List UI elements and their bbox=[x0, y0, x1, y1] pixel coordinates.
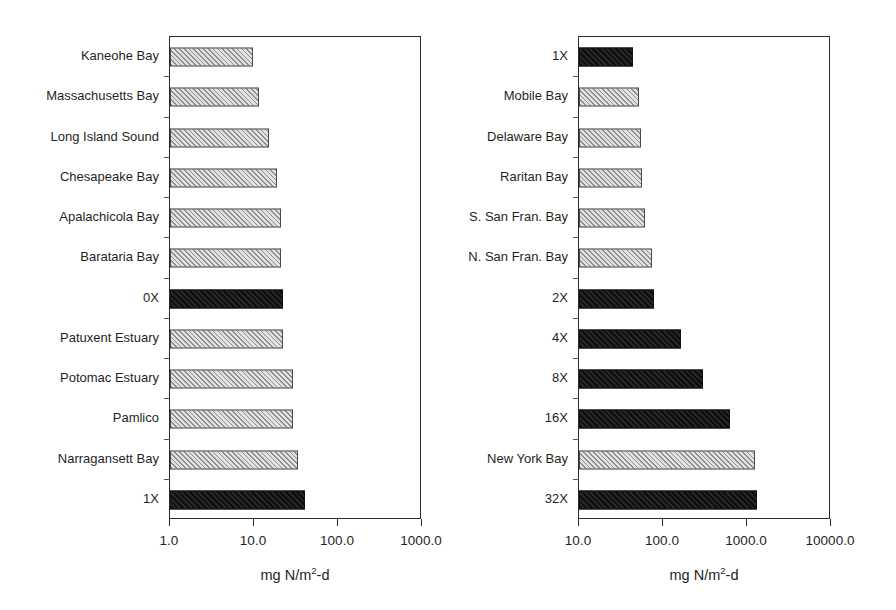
y-tick bbox=[164, 237, 170, 238]
y-tick bbox=[164, 479, 170, 480]
y-axis-label: 0X bbox=[0, 291, 159, 305]
x-tick bbox=[578, 519, 579, 526]
y-axis-label: New York Bay bbox=[448, 452, 568, 466]
bar-long-island-sound bbox=[170, 128, 269, 147]
y-tick bbox=[164, 398, 170, 399]
bar-potomac-estuary bbox=[170, 370, 293, 389]
y-axis-label: Chesapeake Bay bbox=[0, 170, 159, 184]
x-tick-label: 10.0 bbox=[240, 533, 266, 548]
bar-row bbox=[170, 77, 420, 117]
y-tick bbox=[573, 318, 579, 319]
bar-row bbox=[579, 77, 829, 117]
y-tick bbox=[164, 358, 170, 359]
bar-row bbox=[170, 238, 420, 278]
figure-two-panel-bar-chart: 1.010.0100.01000.0 mg N/m2-d Kaneohe Bay… bbox=[0, 0, 896, 610]
y-tick bbox=[573, 237, 579, 238]
bar-chesapeake-bay bbox=[170, 168, 277, 187]
x-tick-label: 100.0 bbox=[645, 533, 679, 548]
bar-row bbox=[170, 158, 420, 198]
bar-rows-left bbox=[170, 37, 420, 518]
bar-row bbox=[579, 158, 829, 198]
bar-1x bbox=[579, 48, 633, 67]
bar-4x bbox=[579, 329, 681, 348]
bar-s-san-fran-bay bbox=[579, 209, 645, 228]
x-tick-label: 10000.0 bbox=[806, 533, 855, 548]
y-axis-label: 8X bbox=[448, 371, 568, 385]
bar-row bbox=[579, 359, 829, 399]
y-tick bbox=[573, 76, 579, 77]
y-tick bbox=[164, 278, 170, 279]
x-tick-label: 10.0 bbox=[565, 533, 591, 548]
y-tick bbox=[164, 439, 170, 440]
y-axis-label: Apalachicola Bay bbox=[0, 210, 159, 224]
bar-raritan-bay bbox=[579, 168, 642, 187]
plot-area-left bbox=[169, 36, 421, 519]
x-tick-label: 100.0 bbox=[320, 533, 354, 548]
y-axis-label: 4X bbox=[448, 331, 568, 345]
bar-pamlico bbox=[170, 410, 293, 429]
bar-row bbox=[170, 480, 420, 520]
x-tick bbox=[421, 519, 422, 526]
x-tick bbox=[830, 519, 831, 526]
bar-32x bbox=[579, 490, 757, 509]
y-axis-label: Mobile Bay bbox=[448, 89, 568, 103]
y-tick bbox=[164, 318, 170, 319]
bar-row bbox=[579, 198, 829, 238]
y-axis-label: Potomac Estuary bbox=[0, 371, 159, 385]
y-axis-label: Long Island Sound bbox=[0, 130, 159, 144]
y-tick bbox=[164, 76, 170, 77]
bar-row bbox=[170, 279, 420, 319]
bar-row bbox=[579, 480, 829, 520]
y-axis-label: Narragansett Bay bbox=[0, 452, 159, 466]
bar-new-york-bay bbox=[579, 450, 755, 469]
bar-mobile-bay bbox=[579, 88, 639, 107]
y-axis-label: N. San Fran. Bay bbox=[448, 250, 568, 264]
bar-row bbox=[170, 37, 420, 77]
x-tick bbox=[169, 519, 170, 526]
x-tick-label: 1.0 bbox=[160, 533, 179, 548]
y-axis-label: 1X bbox=[448, 49, 568, 63]
x-tick bbox=[662, 519, 663, 526]
y-axis-label: Raritan Bay bbox=[448, 170, 568, 184]
bar-16x bbox=[579, 410, 730, 429]
y-tick bbox=[573, 439, 579, 440]
y-tick bbox=[573, 479, 579, 480]
y-axis-label: Kaneohe Bay bbox=[0, 49, 159, 63]
bar-row bbox=[579, 440, 829, 480]
bar-row bbox=[579, 279, 829, 319]
bar-8x bbox=[579, 370, 703, 389]
chart-panel-right: 10.0100.01000.010000.0 mg N/m2-d 1XMobil… bbox=[448, 0, 896, 610]
bar-narragansett-bay bbox=[170, 450, 298, 469]
x-tick bbox=[253, 519, 254, 526]
x-axis-title-right: mg N/m2-d bbox=[670, 567, 739, 583]
y-axis-label: Delaware Bay bbox=[448, 130, 568, 144]
y-axis-label: Patuxent Estuary bbox=[0, 331, 159, 345]
chart-panel-left: 1.010.0100.01000.0 mg N/m2-d Kaneohe Bay… bbox=[0, 0, 448, 610]
y-tick bbox=[164, 157, 170, 158]
x-tick bbox=[746, 519, 747, 526]
bar-row bbox=[579, 238, 829, 278]
bar-row bbox=[170, 440, 420, 480]
x-axis-title-left: mg N/m2-d bbox=[261, 567, 330, 583]
plot-area-right bbox=[578, 36, 830, 519]
bar-rows-right bbox=[579, 37, 829, 518]
y-axis-label: S. San Fran. Bay bbox=[448, 210, 568, 224]
bar-2x bbox=[579, 289, 654, 308]
y-axis-label: Massachusetts Bay bbox=[0, 89, 159, 103]
bar-row bbox=[170, 118, 420, 158]
y-tick bbox=[573, 358, 579, 359]
y-tick bbox=[573, 278, 579, 279]
bar-barataria-bay bbox=[170, 249, 281, 268]
bar-row bbox=[170, 359, 420, 399]
y-tick bbox=[573, 157, 579, 158]
y-tick bbox=[164, 197, 170, 198]
bar-delaware-bay bbox=[579, 128, 641, 147]
bar-row bbox=[579, 37, 829, 77]
bar-row bbox=[579, 118, 829, 158]
bar-1x bbox=[170, 490, 305, 509]
y-tick bbox=[573, 197, 579, 198]
bar-row bbox=[579, 319, 829, 359]
x-tick-label: 1000.0 bbox=[400, 533, 441, 548]
y-axis-label: 1X bbox=[0, 492, 159, 506]
y-axis-label: Pamlico bbox=[0, 411, 159, 425]
